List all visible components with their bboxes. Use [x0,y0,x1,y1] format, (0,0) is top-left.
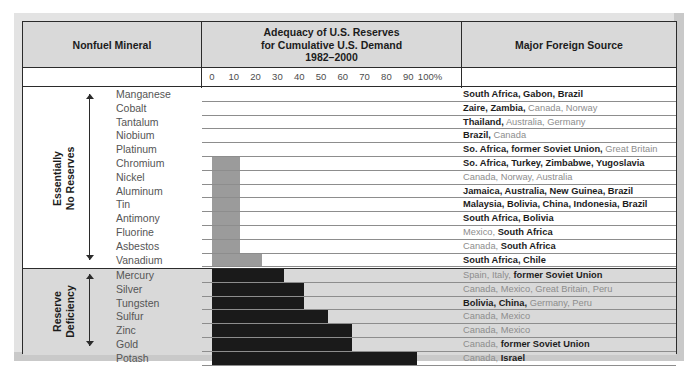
foreign-source: Malaysia, Bolivia, China, Indonesia, Bra… [463,198,647,212]
mineral-name: Potash [116,352,149,366]
mineral-name: Gold [116,338,138,352]
table-row: AsbestosCanada, South Africa [23,240,676,254]
bar-sulfur [212,310,328,324]
mineral-name: Fluorine [116,226,154,240]
group-essentially-no-reserves: ManganeseSouth Africa, Gabon, BrazilCoba… [23,88,676,268]
group-range-arrow [89,274,90,346]
bar-aluminum [212,185,240,199]
bar-chromium [212,157,240,171]
table-row: GoldCanada, former Soviet Union [23,338,676,352]
table-row: ChromiumSo. Africa, Turkey, Zimbabwe, Yu… [23,157,676,171]
table-row: PlatinumSo. Africa, former Soviet Union,… [23,143,676,157]
header-major-foreign-source-label: Major Foreign Source [515,39,623,52]
mineral-name: Niobium [116,129,155,143]
mineral-name: Tungsten [116,297,159,311]
bar-nickel [212,171,240,185]
header-nonfuel-mineral: Nonfuel Mineral [23,22,201,68]
foreign-source: South Africa, Chile [463,254,546,268]
header-adequacy-line3: 1982–2000 [261,51,402,64]
bar-antimony [212,212,240,226]
group-label: EssentiallyNo Reserves [51,119,76,239]
foreign-source: Canada, South Africa [463,240,556,254]
axis-tick-10: 10 [229,71,240,82]
figure-root: Nonfuel Mineral Adequacy of U.S. Reserve… [0,0,699,372]
foreign-source: Mexico, South Africa [463,226,553,240]
axis-tick-30: 30 [272,71,283,82]
table-row: CobaltZaire, Zambia, Canada, Norway [23,102,676,116]
foreign-source: Canada, Mexico [463,310,530,324]
bar-mercury [212,269,284,283]
foreign-source: Zaire, Zambia, Canada, Norway [463,102,597,116]
mineral-name: Antimony [116,212,160,226]
mineral-name: Zinc [116,324,136,338]
mineral-name: Silver [116,283,142,297]
table-row: AntimonySouth Africa, Bolivia [23,212,676,226]
table-row: AluminumJamaica, Australia, New Guinea, … [23,185,676,199]
axis-tick-0: 0 [209,71,214,82]
group-reserve-deficiency: MercurySpain, Italy, former Soviet Union… [23,268,676,355]
table-row: ZincCanada, Mexico [23,324,676,338]
mineral-name: Asbestos [116,240,159,254]
foreign-source: Thailand, Australia, Germany [463,116,585,130]
foreign-source: South Africa, Bolivia [463,212,554,226]
foreign-source: Canada, Mexico [463,324,530,338]
table-row: ManganeseSouth Africa, Gabon, Brazil [23,88,676,102]
header-adequacy-line1: Adequacy of U.S. Reserves [261,26,402,39]
table-row: TungstenBolivia, China, Germany, Peru [23,297,676,311]
foreign-source: Spain, Italy, former Soviet Union [463,269,602,283]
axis-tick-20: 20 [250,71,261,82]
axis-tick-90: 90 [403,71,414,82]
table-row: NickelCanada, Norway, Australia [23,171,676,185]
group-label-line1: Reserve [51,252,64,372]
foreign-source: Canada, Norway, Australia [463,171,572,185]
foreign-source: So. Africa, former Soviet Union, Great B… [463,143,657,157]
x-axis-tick-band: 0102030405060708090100% [23,69,676,87]
table-row: FluorineMexico, South Africa [23,226,676,240]
group-label: ReserveDeficiency [51,252,76,372]
foreign-source: So. Africa, Turkey, Zimbabwe, Yugoslavia [463,157,645,171]
mineral-name: Chromium [116,157,164,171]
header-major-foreign-source: Major Foreign Source [462,22,676,68]
axis-tick-100: 100% [418,71,442,82]
data-table: Nonfuel Mineral Adequacy of U.S. Reserve… [22,21,677,354]
mineral-name: Mercury [116,269,154,283]
bar-silver [212,283,304,297]
header-nonfuel-mineral-label: Nonfuel Mineral [73,39,152,52]
foreign-source: Jamaica, Australia, New Guinea, Brazil [463,185,633,199]
table-row: NiobiumBrazil, Canada [23,129,676,143]
table-row: TantalumThailand, Australia, Germany [23,116,676,130]
mineral-name: Vanadium [116,254,163,268]
bar-gold [212,338,352,352]
bar-fluorine [212,226,240,240]
table-row: VanadiumSouth Africa, Chile [23,254,676,268]
table-row: PotashCanada, Israel [23,352,676,366]
table-row: SulfurCanada, Mexico [23,310,676,324]
group-label-line1: Essentially [51,119,64,239]
mineral-name: Tin [116,198,130,212]
bar-potash [212,352,417,366]
table-body: ManganeseSouth Africa, Gabon, BrazilCoba… [23,88,676,353]
foreign-source: Brazil, Canada [463,129,526,143]
mineral-name: Platinum [116,143,157,157]
axis-tick-80: 80 [381,71,392,82]
table-row: SilverCanada, Mexico, Great Britain, Per… [23,283,676,297]
mineral-name: Tantalum [116,116,159,130]
row-gridline [202,365,676,366]
table-row: MercurySpain, Italy, former Soviet Union [23,269,676,283]
table-header-row: Nonfuel Mineral Adequacy of U.S. Reserve… [23,22,676,68]
group-label-line2: No Reserves [63,119,76,239]
mineral-name: Cobalt [116,102,146,116]
foreign-source: South Africa, Gabon, Brazil [463,88,583,102]
bar-tin [212,198,240,212]
bar-asbestos [212,240,240,254]
mineral-name: Nickel [116,171,145,185]
foreign-source: Canada, Israel [463,352,525,366]
foreign-source: Canada, Mexico, Great Britain, Peru [463,283,612,297]
mineral-name: Sulfur [116,310,143,324]
mineral-name: Aluminum [116,185,163,199]
bar-zinc [212,324,352,338]
axis-tick-60: 60 [338,71,349,82]
foreign-source: Bolivia, China, Germany, Peru [463,297,592,311]
axis-tick-70: 70 [359,71,370,82]
axis-tick-40: 40 [294,71,305,82]
